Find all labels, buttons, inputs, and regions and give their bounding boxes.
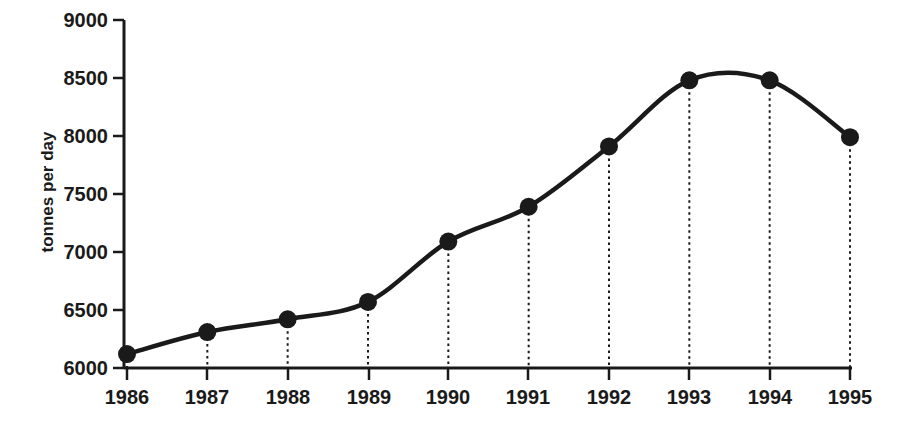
x-tick-label-1993: 1993 (667, 386, 712, 408)
x-tick-label-1995: 1995 (828, 386, 873, 408)
data-point-1990 (439, 233, 457, 251)
data-point-1986 (118, 345, 136, 363)
y-tick-label-7000: 7000 (64, 241, 109, 263)
data-point-1992 (600, 137, 618, 155)
data-point-1994 (761, 71, 779, 89)
x-tick-label-1987: 1987 (185, 386, 230, 408)
x-tick-label-1991: 1991 (506, 386, 551, 408)
y-tick-label-8000: 8000 (64, 125, 109, 147)
data-point-1995 (841, 128, 859, 146)
y-tick-label-9000: 9000 (64, 9, 109, 31)
data-point-1989 (359, 293, 377, 311)
data-point-1993 (680, 71, 698, 89)
data-point-1987 (198, 323, 216, 341)
chart-figure: 9000 8500 8000 7500 7000 6500 6000 tonne… (0, 0, 917, 431)
x-tick-label-1990: 1990 (426, 386, 471, 408)
chart-background (0, 0, 917, 431)
x-tick-label-1988: 1988 (266, 386, 311, 408)
y-axis-title: tonnes per day (38, 131, 57, 252)
line-chart: 9000 8500 8000 7500 7000 6500 6000 tonne… (0, 0, 917, 431)
x-tick-label-1994: 1994 (748, 386, 793, 408)
x-tick-label-1986: 1986 (105, 386, 150, 408)
y-tick-label-6500: 6500 (64, 299, 109, 321)
data-point-1988 (279, 310, 297, 328)
x-tick-label-1989: 1989 (347, 386, 392, 408)
y-tick-label-7500: 7500 (64, 183, 109, 205)
data-point-1991 (520, 198, 538, 216)
x-tick-label-1992: 1992 (587, 386, 632, 408)
y-tick-label-8500: 8500 (64, 67, 109, 89)
y-tick-label-6000: 6000 (64, 357, 109, 379)
